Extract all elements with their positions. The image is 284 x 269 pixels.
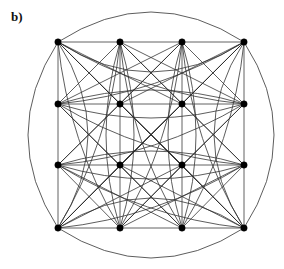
graph-node — [55, 101, 61, 107]
graph-node — [55, 225, 61, 231]
graph-node — [241, 225, 247, 231]
graph-node — [117, 101, 123, 107]
wraparound-edge-vertical — [244, 42, 274, 228]
graph-node — [117, 162, 123, 168]
diagonal-edge-layer — [58, 42, 244, 228]
graph-node — [241, 162, 247, 168]
graph-node — [179, 101, 185, 107]
wraparound-edge-horizontal — [58, 12, 244, 42]
graph-node — [179, 39, 185, 45]
wraparound-edge-vertical — [214, 42, 244, 228]
graph-node — [241, 39, 247, 45]
wraparound-edge-vertical — [58, 42, 88, 228]
wraparound-edge-horizontal — [58, 42, 244, 72]
graph-node — [55, 162, 61, 168]
graph-drawing — [0, 0, 284, 269]
wraparound-edge-horizontal — [58, 198, 244, 228]
wraparound-edge-horizontal — [58, 228, 244, 258]
graph-node — [179, 225, 185, 231]
panel-label: b) — [11, 10, 23, 23]
wraparound-edge-vertical — [28, 42, 58, 228]
graph-node — [241, 101, 247, 107]
graph-node — [117, 225, 123, 231]
graph-node — [179, 162, 185, 168]
figure-panel: b) — [0, 0, 284, 269]
graph-node — [55, 39, 61, 45]
graph-node — [117, 39, 123, 45]
wraparound-edge-horizontal — [58, 90, 244, 104]
